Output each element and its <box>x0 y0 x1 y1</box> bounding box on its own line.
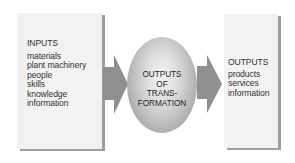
transformation-line: OUTPUTS <box>127 70 197 80</box>
outputs-title: OUTPUTS <box>228 58 268 67</box>
outputs-list: products services information <box>228 70 269 98</box>
transformation-line: FORMATION <box>127 99 197 109</box>
output-item: information <box>228 89 269 98</box>
arrow-inputs-to-transformation <box>103 55 128 114</box>
arrow-transformation-to-outputs <box>197 55 222 113</box>
transformation-line: OF <box>127 80 197 90</box>
transformation-label: OUTPUTS OF TRANS- FORMATION <box>127 70 197 108</box>
transformation-line: TRANS- <box>127 89 197 99</box>
